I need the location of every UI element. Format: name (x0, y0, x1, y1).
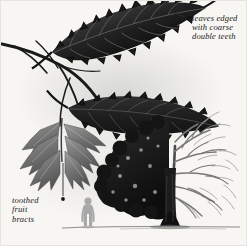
field-guide-plate: leaves edged with coarse double teeth to… (0, 0, 247, 246)
ground-line (62, 225, 240, 229)
callout-leaf-line3: double teeth (192, 32, 237, 41)
callout-bract-text: toothed fruit bracts (12, 196, 39, 224)
callout-leaf-text: leaves edged with coarse double teeth (192, 14, 237, 42)
callout-bract-line3: bracts (12, 215, 39, 224)
